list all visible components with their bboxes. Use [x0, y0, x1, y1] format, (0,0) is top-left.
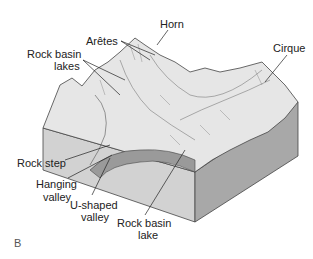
label-hanging-valley-line2: valley [43, 191, 71, 203]
label-u-shaped-valley-line1: U-shaped [70, 199, 118, 211]
label-cirque: Cirque [273, 42, 305, 54]
label-rock-basin-lake-line1: Rock basin [117, 217, 171, 229]
label-rock-step: Rock step [17, 157, 66, 169]
label-u-shaped-valley-line2: valley [81, 211, 109, 223]
label-rock-basin-lakes-line1: Rock basin [27, 48, 81, 60]
label-aretes: Arêtes [86, 35, 118, 47]
label-horn: Horn [160, 18, 184, 30]
label-hanging-valley-line1: Hanging [36, 178, 77, 190]
panel-letter: B [14, 237, 21, 249]
label-rock-basin-lakes-line2: lakes [54, 60, 80, 72]
label-rock-basin-lake-line2: lake [138, 229, 158, 241]
